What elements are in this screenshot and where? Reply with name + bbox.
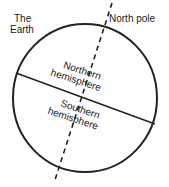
earth-label-line2: Earth — [10, 24, 34, 35]
north-pole-label: North pole — [109, 13, 155, 24]
earth-label: The Earth — [10, 13, 34, 35]
earth-axis-dashed — [54, 3, 112, 183]
earth-label-line1: The — [10, 13, 34, 24]
